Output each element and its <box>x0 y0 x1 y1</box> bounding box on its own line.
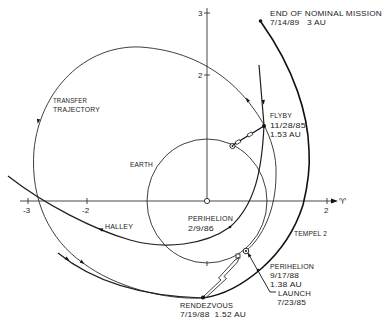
flyby-date: 11/28/85 <box>270 121 306 130</box>
halley-perihelion-date: 2/9/86 <box>188 224 214 233</box>
rendezvous-probe-icon <box>204 258 239 298</box>
earth-label: EARTH <box>130 160 153 169</box>
halley-label: HALLEY <box>105 222 133 231</box>
y-tick-label-pos2: 2 <box>198 71 203 80</box>
flyby-probe-icon <box>233 126 264 145</box>
flyby-distance: 1.53 AU <box>270 130 301 139</box>
transfer-arrow-icon <box>245 97 250 103</box>
end-of-mission-label: END OF NOMINAL MISSION <box>270 9 382 18</box>
orbit-diagram-canvas: -3 -2 2 3 2 ♈ <box>0 0 388 322</box>
direction-arrows <box>36 97 265 266</box>
launch-date: 7/23/85 <box>277 298 306 307</box>
end-of-mission-marker <box>259 19 263 23</box>
labels: END OF NOMINAL MISSION 7/14/89 3 AU TRAN… <box>53 9 382 319</box>
transfer-trajectory <box>33 47 276 298</box>
tempel2-perihelion-distance: 1.38 AU <box>270 280 302 289</box>
tempel2-orbit-outbound <box>203 22 309 298</box>
x-tick-label-neg3: -3 <box>23 206 31 215</box>
x-tick-label-neg2: -2 <box>82 206 90 215</box>
vernal-equinox-icon: ♈ <box>339 197 346 206</box>
flyby-label: FLYBY <box>270 111 292 120</box>
orbit-diagram: -3 -2 2 3 2 ♈ <box>0 0 388 322</box>
x-axis-arrow-icon <box>331 199 338 204</box>
halley-perihelion-marker <box>229 226 232 229</box>
x-tick-label-pos2: 2 <box>324 206 329 215</box>
tempel2-label: TEMPEL 2 <box>294 229 327 238</box>
transfer-label: TRANSFER <box>53 96 87 105</box>
sun-icon <box>204 198 209 203</box>
trajectory-label: TRAJECTORY <box>53 105 100 114</box>
tempel2-orbit-inbound <box>58 253 203 298</box>
launch-label: LAUNCH <box>278 289 311 298</box>
halley-perihelion-label: PERIHELION <box>188 214 233 223</box>
end-of-mission-date: 7/14/89 3 AU <box>270 18 326 27</box>
y-tick-label-pos3: 3 <box>198 9 203 18</box>
rendezvous-label: RENDEZVOUS <box>180 301 233 310</box>
tempel2-perihelion-label: PERIHELION <box>270 262 314 271</box>
rendezvous-date-distance: 7/19/88 1.52 AU <box>180 310 246 319</box>
